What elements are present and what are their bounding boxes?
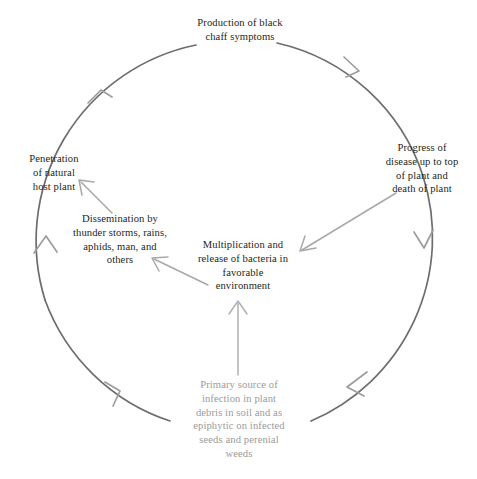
arrow-progress-to-multiplication: [300, 193, 396, 251]
node-label-progress: Progress of disease up to top of plant a…: [370, 141, 474, 196]
node-label-multiplication: Multiplication and release of bacteria i…: [184, 238, 302, 293]
node-label-dissemination: Dissemination by thunder storms, rains, …: [62, 212, 178, 267]
arrowhead-bottom-left: [105, 382, 120, 406]
diagram-canvas: Production of black chaff symptoms Progr…: [0, 0, 477, 479]
node-label-primary-source: Primary source of infection in plant deb…: [177, 378, 301, 461]
node-label-production: Production of black chaff symptoms: [148, 16, 332, 44]
arrowhead-left: [34, 236, 57, 253]
arrowhead-top-left: [88, 90, 112, 103]
arrow-primary-to-multiplication: [229, 301, 247, 375]
arrowhead-right: [414, 230, 433, 248]
node-label-penetration: Penetration of natural host plant: [2, 152, 106, 193]
arc-right-bottom: [311, 176, 433, 421]
arc-bottom-left: [45, 300, 170, 421]
arrowhead-bottom-right: [347, 372, 367, 396]
